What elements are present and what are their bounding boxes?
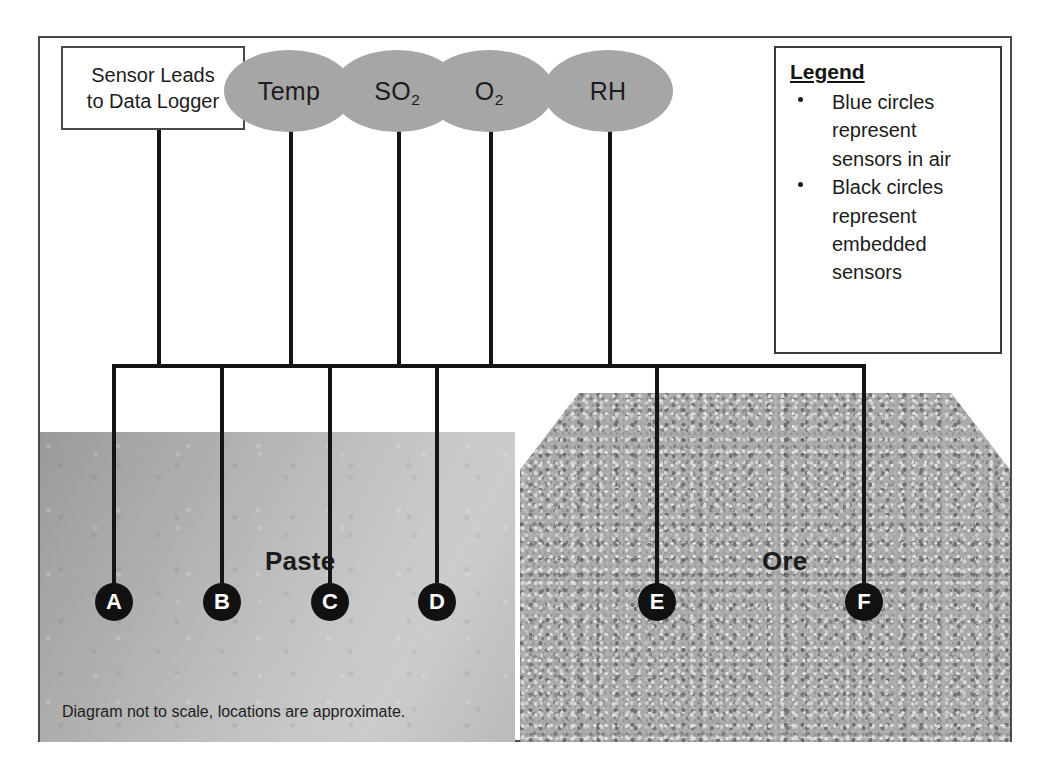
sensor-leads-line-1: Sensor Leads <box>91 64 214 86</box>
embedded-sensor-a-label: A <box>106 589 122 615</box>
wire-sensor-d <box>435 364 439 599</box>
embedded-sensor-e[interactable]: E <box>638 583 676 621</box>
embedded-sensor-a[interactable]: A <box>95 583 133 621</box>
legend-item-embedded: Black circles represent embedded sensors <box>790 173 990 287</box>
wire-sensor-e <box>655 364 659 599</box>
embedded-sensor-b[interactable]: B <box>203 583 241 621</box>
diagram-canvas: Paste Ore Sensor Leads to Data Logger Te… <box>0 0 1046 773</box>
paste-region-label: Paste <box>265 546 335 577</box>
legend-box: Legend Blue circles represent sensors in… <box>774 46 1002 354</box>
sensor-leads-box[interactable]: Sensor Leads to Data Logger <box>61 46 245 130</box>
embedded-sensor-f[interactable]: F <box>845 583 883 621</box>
wire-sensor-c <box>328 364 332 599</box>
diagram-caption: Diagram not to scale, locations are appr… <box>62 703 405 721</box>
air-sensor-rh-label: RH <box>590 77 627 106</box>
embedded-sensor-c[interactable]: C <box>311 583 349 621</box>
legend-title: Legend <box>790 60 990 84</box>
legend-item-embedded-text: Black circles represent embedded sensors <box>832 176 943 283</box>
legend-bullet-icon <box>798 97 803 102</box>
wire-sensor-b <box>220 364 224 599</box>
embedded-sensor-b-label: B <box>214 589 230 615</box>
ore-region-label: Ore <box>762 546 807 577</box>
embedded-sensor-d[interactable]: D <box>418 583 456 621</box>
wire-so2-down <box>397 118 401 368</box>
wire-temp-down <box>289 118 293 368</box>
air-sensor-o2[interactable]: O2 <box>424 50 554 132</box>
air-sensor-o2-label: O2 <box>475 77 504 106</box>
legend-item-air-text: Blue circles represent sensors in air <box>832 91 951 170</box>
wire-rh-down <box>608 118 612 368</box>
sensor-leads-box-label: Sensor Leads to Data Logger <box>87 62 219 114</box>
embedded-sensor-e-label: E <box>650 589 665 615</box>
embedded-sensor-f-label: F <box>857 589 870 615</box>
wire-bus-bar <box>112 364 866 368</box>
sensor-leads-line-2: to Data Logger <box>87 90 219 112</box>
air-sensor-rh[interactable]: RH <box>543 50 673 132</box>
legend-bullet-icon <box>798 182 803 187</box>
air-sensor-temp-label: Temp <box>258 77 320 106</box>
air-sensor-so2-label: SO2 <box>374 77 420 106</box>
embedded-sensor-c-label: C <box>322 589 338 615</box>
wire-lead-box-down <box>157 122 161 368</box>
wire-sensor-a <box>112 364 116 599</box>
wire-sensor-f <box>862 364 866 599</box>
legend-list: Blue circles represent sensors in air Bl… <box>790 88 990 287</box>
wire-o2-down <box>489 118 493 368</box>
embedded-sensor-d-label: D <box>429 589 445 615</box>
legend-item-air: Blue circles represent sensors in air <box>790 88 990 173</box>
diagram-frame: Paste Ore Sensor Leads to Data Logger Te… <box>38 36 1012 742</box>
